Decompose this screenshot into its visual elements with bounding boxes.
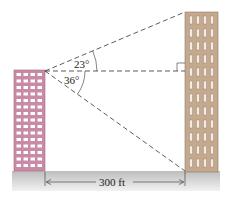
sight-lines [45, 12, 185, 171]
window [197, 55, 200, 63]
window [17, 80, 22, 83]
window [204, 16, 207, 24]
window [31, 99, 36, 102]
window [38, 112, 43, 115]
window [211, 94, 214, 102]
window [31, 125, 36, 128]
window [24, 73, 29, 76]
window [31, 158, 36, 161]
elevation-line [45, 12, 185, 71]
elevation-angle-arc [93, 51, 97, 71]
window [204, 55, 207, 63]
window [211, 81, 214, 89]
window [38, 119, 43, 122]
depression-line [45, 71, 185, 171]
window [17, 164, 22, 167]
window [31, 145, 36, 148]
window [197, 107, 200, 115]
window [211, 68, 214, 76]
window [38, 158, 43, 161]
window [38, 125, 43, 128]
window [190, 146, 193, 154]
window [211, 120, 214, 128]
window [17, 151, 22, 154]
window [197, 146, 200, 154]
window [197, 133, 200, 141]
window [31, 138, 36, 141]
window [211, 29, 214, 37]
window [17, 125, 22, 128]
window [17, 145, 22, 148]
window [197, 159, 200, 167]
window [31, 106, 36, 109]
window [17, 73, 22, 76]
right-building [185, 12, 218, 172]
window [38, 93, 43, 96]
window [204, 29, 207, 37]
window [24, 106, 29, 109]
window [31, 119, 36, 122]
window [211, 16, 214, 24]
window [38, 73, 43, 76]
window [197, 42, 200, 50]
window [38, 106, 43, 109]
window [38, 99, 43, 102]
distance-label: 300 ft [99, 176, 125, 188]
window [211, 146, 214, 154]
window [24, 80, 29, 83]
window [24, 145, 29, 148]
window [17, 99, 22, 102]
window [38, 132, 43, 135]
window [190, 42, 193, 50]
window [197, 120, 200, 128]
window [24, 138, 29, 141]
window [24, 86, 29, 89]
window [197, 68, 200, 76]
window [31, 80, 36, 83]
window [190, 16, 193, 24]
window [204, 42, 207, 50]
window [17, 158, 22, 161]
window [17, 132, 22, 135]
window [190, 159, 193, 167]
window [204, 120, 207, 128]
window [24, 99, 29, 102]
window [38, 151, 43, 154]
window [190, 120, 193, 128]
depression-angle-label: 36° [64, 74, 79, 86]
window [204, 107, 207, 115]
window [31, 93, 36, 96]
window [24, 125, 29, 128]
window [197, 29, 200, 37]
window [38, 80, 43, 83]
window [211, 42, 214, 50]
window [31, 86, 36, 89]
window [197, 81, 200, 89]
window [31, 132, 36, 135]
diagram: 23° 36° 300 ft [0, 0, 231, 198]
window [211, 133, 214, 141]
window [17, 112, 22, 115]
window [204, 68, 207, 76]
window [31, 112, 36, 115]
window [204, 146, 207, 154]
elevation-angle-label: 23° [74, 58, 89, 70]
window [31, 151, 36, 154]
window [190, 107, 193, 115]
window [211, 55, 214, 63]
window [24, 164, 29, 167]
window [204, 133, 207, 141]
window [17, 138, 22, 141]
window [190, 133, 193, 141]
window [31, 164, 36, 167]
window [24, 151, 29, 154]
window [17, 93, 22, 96]
window [190, 29, 193, 37]
window [190, 94, 193, 102]
window [24, 158, 29, 161]
window [24, 132, 29, 135]
window [190, 68, 193, 76]
window [197, 16, 200, 24]
window [24, 119, 29, 122]
window [24, 93, 29, 96]
